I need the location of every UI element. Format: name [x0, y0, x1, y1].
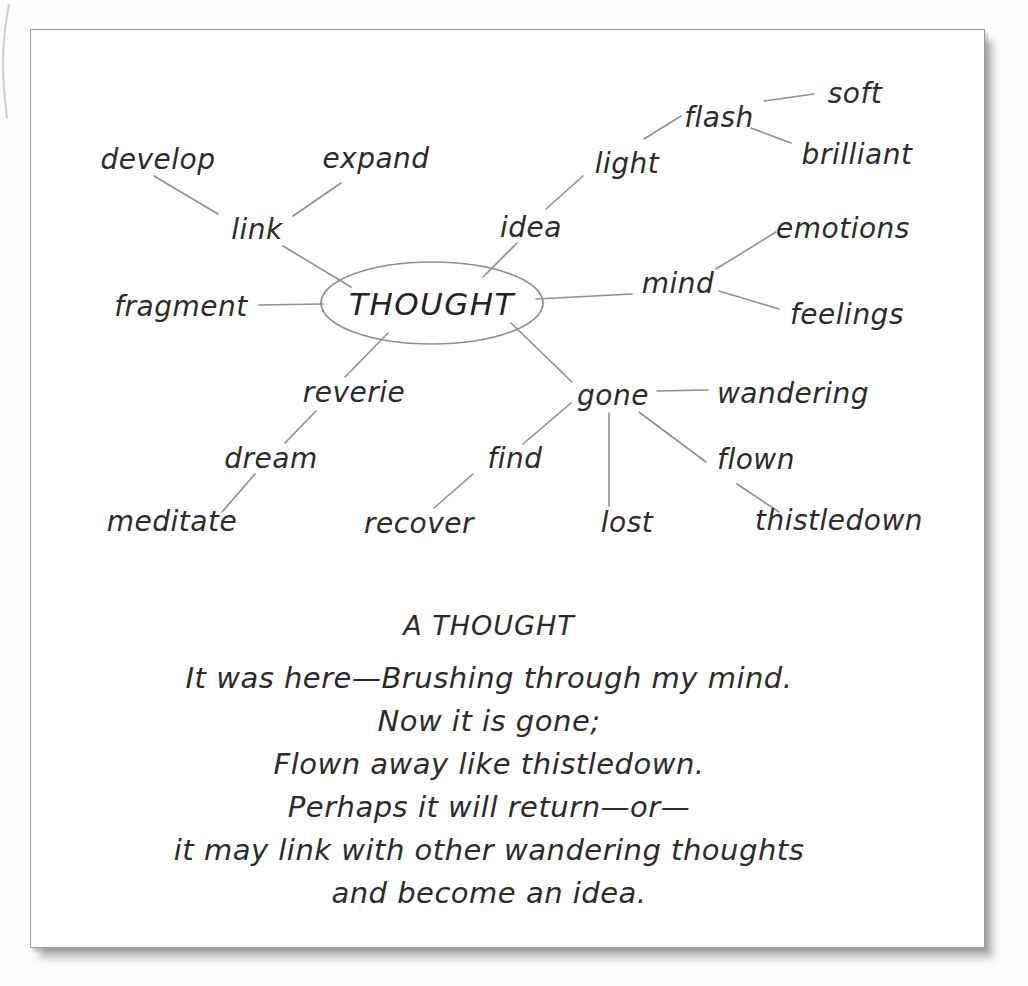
- poem-line: It was here—Brushing through my mind.: [31, 657, 947, 700]
- worksheet-panel: THOUGHT develop expand link fragment ide…: [30, 29, 985, 948]
- poem-line: and become an idea.: [31, 872, 947, 915]
- edge-reverie-dream: [285, 411, 316, 443]
- node-emotions: emotions: [776, 212, 910, 245]
- node-idea: idea: [500, 211, 562, 244]
- edge-thought-fragment: [259, 304, 323, 305]
- node-gone: gone: [577, 379, 649, 412]
- edge-gone-flown: [639, 412, 706, 462]
- node-find: find: [487, 442, 542, 475]
- poem-line: Now it is gone;: [31, 700, 947, 743]
- edge-mind-emotions: [716, 232, 776, 269]
- node-fragment: fragment: [114, 290, 248, 323]
- edge-mind-feelings: [719, 291, 779, 309]
- edge-thought-idea: [483, 243, 517, 277]
- node-flash: flash: [684, 101, 754, 134]
- node-expand: expand: [322, 142, 429, 175]
- edge-find-recover: [434, 474, 473, 508]
- node-reverie: reverie: [303, 376, 406, 409]
- poem-line: Flown away like thistledown.: [31, 743, 947, 786]
- poem-line: Perhaps it will return—or—: [31, 786, 947, 829]
- node-mind: mind: [642, 267, 715, 300]
- scanned-page: THOUGHT develop expand link fragment ide…: [0, 0, 1028, 986]
- node-dream: dream: [224, 442, 317, 475]
- poem-title: A THOUGHT: [31, 610, 947, 641]
- node-wandering: wandering: [717, 377, 869, 410]
- node-thistledown: thistledown: [755, 504, 923, 537]
- page-edge-curve: [0, 0, 16, 140]
- node-thought: THOUGHT: [349, 286, 515, 322]
- node-recover: recover: [364, 507, 474, 540]
- edge-link-develop: [154, 176, 218, 214]
- edge-light-flash: [644, 116, 681, 139]
- edge-link-expand: [293, 183, 341, 216]
- node-flown: flown: [717, 443, 795, 476]
- edge-flash-soft: [764, 94, 814, 101]
- node-soft: soft: [828, 77, 883, 110]
- node-link: link: [231, 213, 283, 246]
- node-brilliant: brilliant: [802, 138, 913, 171]
- node-feelings: feelings: [790, 298, 904, 331]
- edge-thought-mind: [536, 294, 632, 299]
- node-lost: lost: [601, 506, 653, 539]
- edge-thought-link: [283, 246, 351, 287]
- node-develop: develop: [101, 143, 216, 176]
- edge-thought-gone: [511, 323, 572, 382]
- node-light: light: [595, 147, 660, 180]
- node-meditate: meditate: [107, 505, 237, 538]
- edge-flash-brilliant: [751, 128, 791, 143]
- poem-line: it may link with other wandering thought…: [31, 829, 947, 872]
- edge-gone-wandering: [657, 390, 708, 391]
- poem-block: A THOUGHT It was here—Brushing through m…: [31, 610, 947, 915]
- edge-idea-light: [546, 176, 583, 209]
- edge-gone-find: [523, 403, 571, 444]
